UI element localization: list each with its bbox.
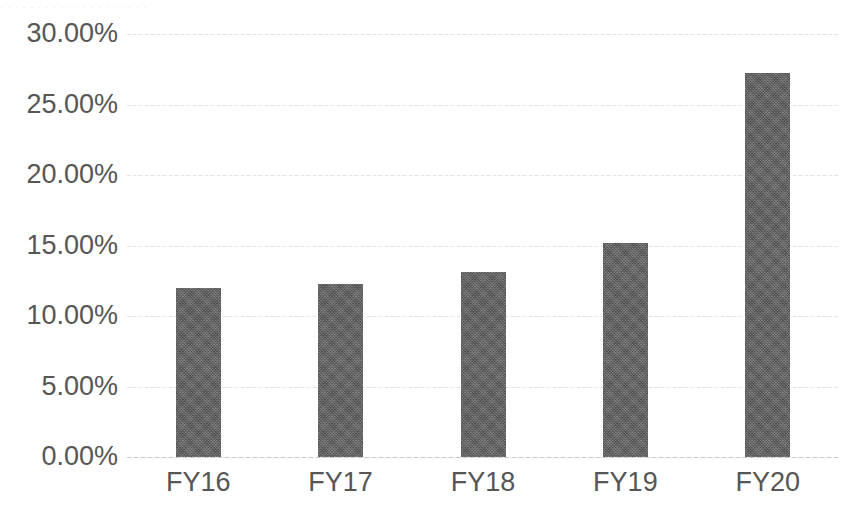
x-axis-tick-label: FY20 [697,462,839,502]
y-axis-tick-label: 25.00% [0,91,118,118]
gridline [127,105,839,106]
y-axis-tick-label: 5.00% [0,373,118,400]
y-axis-tick-label: 0.00% [0,443,118,470]
y-axis-tick-label: 20.00% [0,161,118,188]
x-axis-tick-label: FY19 [554,462,696,502]
y-axis-tick-label: 15.00% [0,232,118,259]
bar [603,243,648,457]
gridline [127,34,839,35]
y-axis: 0.00%5.00%10.00%15.00%20.00%25.00%30.00% [0,34,118,457]
y-axis-tick-label: 10.00% [0,302,118,329]
bar [461,272,506,457]
x-axis-tick-label: FY18 [412,462,554,502]
scan-artifact-strip: · · · · · · · · · · · · · · · · · · · · [0,0,851,14]
x-axis-tick-label: FY16 [127,462,269,502]
bar [745,73,790,457]
x-axis: FY16FY17FY18FY19FY20 [127,462,839,506]
bar [176,288,221,457]
bar-chart: · · · · · · · · · · · · · · · · · · · · … [0,0,851,520]
gridline [127,457,839,458]
gridline [127,246,839,247]
x-axis-tick-label: FY17 [269,462,411,502]
plot-area [127,34,839,457]
gridline [127,175,839,176]
bar [318,284,363,457]
y-axis-tick-label: 30.00% [0,20,118,47]
